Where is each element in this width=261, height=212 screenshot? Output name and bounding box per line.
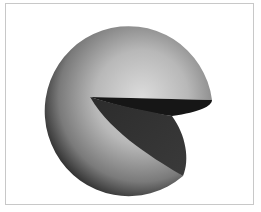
sphere-render — [0, 0, 261, 212]
